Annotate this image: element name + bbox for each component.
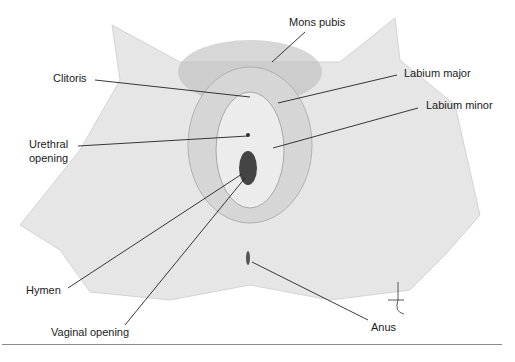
label-labium-major: Labium major	[404, 67, 471, 80]
label-clitoris: Clitoris	[53, 72, 87, 85]
anus-marker	[246, 251, 250, 265]
label-vaginal-opening: Vaginal opening	[51, 326, 129, 339]
figure-divider	[2, 344, 502, 345]
label-mons-pubis: Mons pubis	[289, 16, 345, 29]
anatomy-illustration	[0, 0, 515, 362]
label-labium-minor: Labium minor	[426, 99, 493, 112]
labia-minor-region	[216, 92, 284, 208]
label-urethral-line2: opening	[29, 152, 68, 165]
label-urethral-line1: Urethral	[29, 138, 68, 151]
label-hymen: Hymen	[26, 284, 61, 297]
vaginal-opening-marker	[239, 151, 257, 185]
label-anus: Anus	[371, 321, 396, 334]
